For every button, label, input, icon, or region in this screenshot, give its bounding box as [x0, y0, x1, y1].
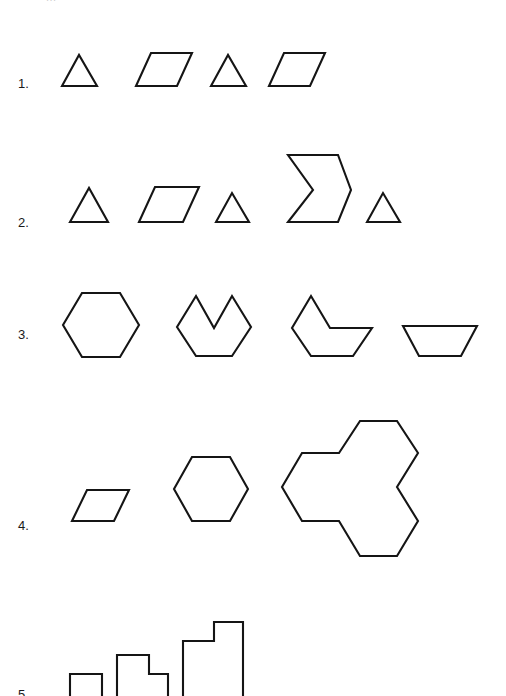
shape-square-r5-c1 — [70, 674, 102, 696]
shape-group-5 — [0, 0, 506, 696]
shape-l-shape-large-r5-c3 — [183, 622, 243, 696]
worksheet-page: ... 1. 2. 3. 4. — [0, 0, 506, 696]
shape-l-shape-small-r5-c2 — [117, 655, 168, 696]
